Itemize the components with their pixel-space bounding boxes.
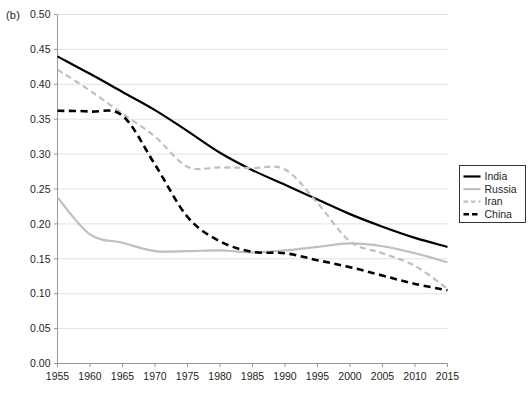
legend-label-india: India: [485, 170, 508, 182]
y-axis-tick-labels: 0.000.050.100.150.200.250.300.350.400.45…: [30, 8, 51, 369]
y-tick-label: 0.40: [30, 78, 51, 90]
x-tick-label: 2000: [338, 370, 362, 382]
y-tick-label: 0.25: [30, 183, 51, 195]
data-series: [58, 56, 448, 290]
chart-figure: (b) 0.000.050.100.150.200.250.300.350.40…: [0, 0, 531, 395]
y-tick-label: 0.50: [30, 8, 51, 20]
x-axis-tick-labels: 1955196019651970197519801985199019952000…: [46, 370, 460, 382]
series-line-india: [58, 56, 448, 247]
x-tick-label: 1965: [111, 370, 135, 382]
legend-label-china: China: [485, 208, 513, 220]
chart-legend: IndiaRussiaIranChina: [460, 166, 526, 223]
y-tick-label: 0.20: [30, 218, 51, 230]
series-line-china: [58, 111, 448, 291]
x-tick-label: 1990: [273, 370, 297, 382]
legend-label-iran: Iran: [485, 195, 503, 207]
y-tick-label: 0.00: [30, 357, 51, 369]
y-tick-label: 0.05: [30, 322, 51, 334]
y-tick-label: 0.35: [30, 113, 51, 125]
series-line-iran: [58, 70, 448, 289]
legend-label-russia: Russia: [485, 183, 517, 195]
x-tick-label: 1995: [306, 370, 330, 382]
x-tick-label: 1970: [143, 370, 167, 382]
y-tick-label: 0.10: [30, 287, 51, 299]
x-tick-label: 1960: [78, 370, 102, 382]
gridlines: [58, 15, 448, 329]
x-tick-label: 1955: [46, 370, 70, 382]
x-tick-label: 1975: [176, 370, 200, 382]
y-tick-label: 0.45: [30, 43, 51, 55]
y-tick-label: 0.30: [30, 148, 51, 160]
y-tick-label: 0.15: [30, 253, 51, 265]
x-tick-label: 1980: [208, 370, 232, 382]
x-tick-label: 2005: [371, 370, 395, 382]
x-tick-label: 2010: [403, 370, 427, 382]
axes: [54, 15, 448, 368]
x-tick-label: 1985: [241, 370, 265, 382]
x-tick-label: 2015: [436, 370, 460, 382]
line-chart: 0.000.050.100.150.200.250.300.350.400.45…: [0, 0, 531, 395]
